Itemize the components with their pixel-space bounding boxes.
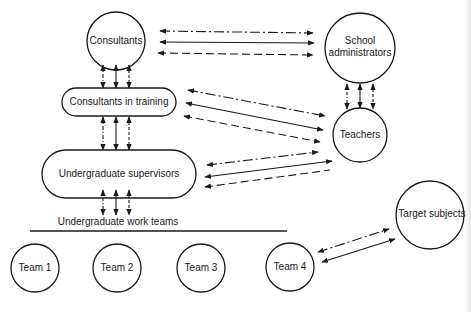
team-3-label: Team 3 xyxy=(185,262,218,275)
consultants-in-training-label: Consultants in training xyxy=(70,96,169,109)
undergraduate-supervisors-label: Undergraduate supervisors xyxy=(59,168,180,181)
target-subjects-label: Target subjects xyxy=(398,208,465,221)
school-administrators-label-line2: administrators xyxy=(329,47,392,60)
school-administrators-label-line1: School xyxy=(345,35,376,48)
team-1-label: Team 1 xyxy=(19,262,52,275)
undergraduate-work-teams-label: Undergraduate work teams xyxy=(58,216,179,229)
team-2-label: Team 2 xyxy=(101,262,134,275)
consultants-label: Consultants xyxy=(90,35,143,48)
team-4-label: Team 4 xyxy=(274,261,307,274)
teachers-label: Teachers xyxy=(340,129,381,142)
page-edge-shadow xyxy=(465,0,471,312)
diagram-canvas xyxy=(0,0,471,312)
